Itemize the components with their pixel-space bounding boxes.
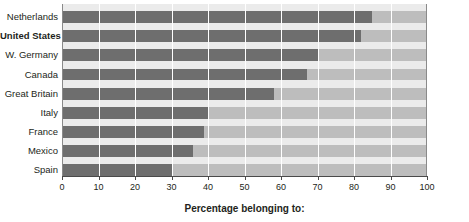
row-gap: [62, 80, 427, 87]
x-axis-tick: [281, 176, 282, 180]
x-axis-tick-label: 60: [276, 182, 286, 192]
category-label: Mexico: [0, 145, 58, 156]
category-axis-labels: NetherlandsUnited StatesW. GermanyCanada…: [0, 4, 58, 176]
bar: [62, 126, 204, 138]
bar: [62, 49, 318, 61]
bar: [62, 30, 361, 42]
row-gap: [62, 61, 427, 68]
x-axis-tick-label: 50: [239, 182, 249, 192]
bar: [62, 164, 172, 176]
x-axis-tick: [245, 176, 246, 180]
row-gap: [62, 4, 427, 11]
category-label: Netherlands: [0, 11, 58, 22]
row-gap: [62, 100, 427, 107]
x-axis-tick-label: 100: [419, 182, 434, 192]
bar-row: [62, 107, 427, 119]
x-axis-tick-label: 0: [59, 182, 64, 192]
x-axis-title: Percentage belonging to:: [62, 203, 427, 214]
x-axis-tick-label: 90: [385, 182, 395, 192]
x-axis-tick: [391, 176, 392, 180]
bar-row: [62, 69, 427, 81]
x-axis-tick-label: 80: [349, 182, 359, 192]
category-label: France: [0, 126, 58, 137]
x-axis-tick: [172, 176, 173, 180]
x-axis-tick: [208, 176, 209, 180]
row-gap: [62, 157, 427, 164]
category-label: United States: [0, 30, 58, 41]
bar: [62, 69, 307, 81]
bar-row: [62, 164, 427, 176]
x-axis-tick-label: 10: [93, 182, 103, 192]
category-label: Italy: [0, 107, 58, 118]
bar-row: [62, 145, 427, 157]
bar-row: [62, 30, 427, 42]
bar-row: [62, 126, 427, 138]
x-axis-tick: [62, 176, 63, 180]
x-axis-tick-label: 30: [166, 182, 176, 192]
plot-area: [62, 4, 427, 176]
bar: [62, 107, 208, 119]
x-axis-tick: [427, 176, 428, 180]
bar-row: [62, 49, 427, 61]
x-axis-tick: [318, 176, 319, 180]
category-label: Spain: [0, 164, 58, 175]
bar-chart: NetherlandsUnited StatesW. GermanyCanada…: [0, 0, 469, 222]
row-gap: [62, 23, 427, 30]
bar: [62, 145, 193, 157]
x-axis-tick: [135, 176, 136, 180]
category-label: Canada: [0, 69, 58, 80]
category-label: Great Britain: [0, 88, 58, 99]
x-axis-tick: [354, 176, 355, 180]
bar: [62, 88, 274, 100]
x-axis-tick-label: 40: [203, 182, 213, 192]
bar: [62, 11, 372, 23]
x-axis-tick: [99, 176, 100, 180]
x-axis-tick-label: 20: [130, 182, 140, 192]
row-gap: [62, 119, 427, 126]
row-gap: [62, 138, 427, 145]
bar-row: [62, 11, 427, 23]
row-gap: [62, 42, 427, 49]
category-label: W. Germany: [0, 49, 58, 60]
bar-row: [62, 88, 427, 100]
x-axis-tick-label: 70: [312, 182, 322, 192]
